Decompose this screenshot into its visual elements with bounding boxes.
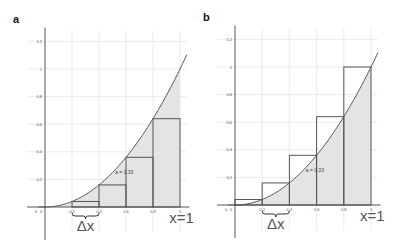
x-equals-one-label: x=1	[360, 207, 385, 224]
panel-label: a	[13, 13, 20, 25]
y-tick-label: 0.4	[36, 149, 42, 154]
x-tick-label: 0.8	[150, 209, 156, 214]
x-tick-label: 0	[40, 209, 43, 214]
area-value-label: a = 0.33	[306, 167, 324, 173]
y-tick-label: 1.2	[36, 39, 42, 44]
panel-label: b	[203, 11, 210, 23]
area-under-curve	[235, 67, 371, 205]
y-tick-label: 0.6	[36, 122, 42, 127]
area-under-curve	[45, 69, 180, 207]
y-tick-label: 0.8	[226, 92, 232, 97]
delta-x-label: Δx	[267, 215, 285, 232]
y-tick-label: 1.2	[226, 37, 232, 42]
origin-label: 0	[35, 209, 38, 214]
area-value-label: a = 0.33	[115, 169, 133, 175]
x-equals-one-label: x=1	[169, 209, 194, 226]
y-tick-label: 0.8	[36, 94, 42, 99]
panel-b-right-riemann-sum: b0.20.40.60.811.200.20.40.60.810a = 0.33…	[203, 11, 385, 238]
riemann-sum-figure: a0.20.40.60.811.200.20.40.60.810a = 0.33…	[0, 0, 399, 245]
x-tick-label: 0	[230, 207, 233, 212]
x-tick-label: 0.6	[314, 207, 320, 212]
y-tick-label: 0.6	[226, 120, 232, 125]
x-tick-label: 0.8	[341, 207, 347, 212]
y-tick-label: 0.2	[226, 175, 232, 180]
y-tick-label: 0.4	[226, 147, 232, 152]
x-tick-label: 0.6	[123, 209, 129, 214]
origin-label: 0	[225, 207, 228, 212]
y-tick-label: 0.2	[36, 177, 42, 182]
delta-x-label: Δx	[77, 217, 95, 234]
panel-a-left-riemann-sum: a0.20.40.60.811.200.20.40.60.810a = 0.33…	[13, 13, 194, 240]
